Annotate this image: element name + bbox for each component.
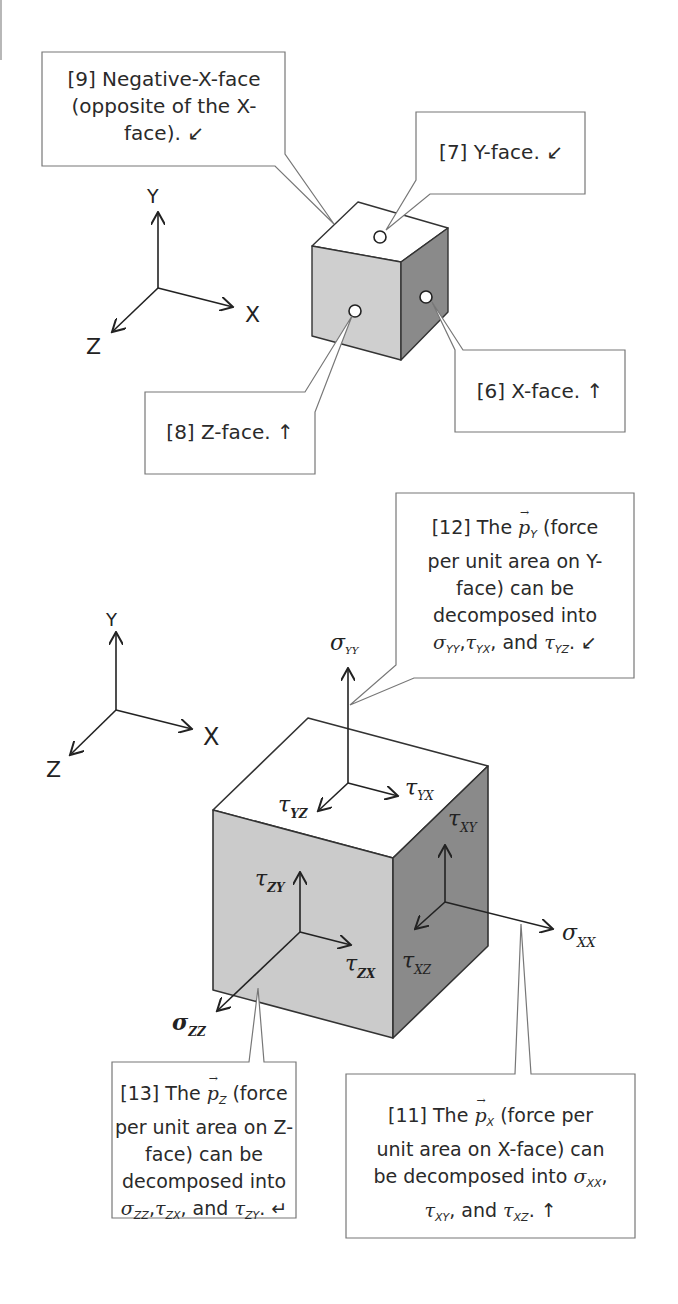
svg-text:σXX: σXX xyxy=(562,920,596,950)
callout-7-text: [7] Y-face. ↙ xyxy=(418,139,584,166)
cube-top xyxy=(312,202,448,360)
callout-8-box xyxy=(145,316,352,474)
callout-13-line-3: face) can be xyxy=(112,1141,296,1168)
callout-12-line-4: decomposed into xyxy=(398,602,632,629)
callout-7-line-1: [7] Y-face. ↙ xyxy=(418,139,584,166)
callout-7-box xyxy=(386,112,585,230)
callout-12-line-5: σYY,τYX, and τYZ. ↙ xyxy=(398,629,632,663)
callout-9-line-3: face). ↙ xyxy=(44,120,284,147)
svg-text:σZZ: σZZ xyxy=(172,1009,207,1039)
marker-y-face xyxy=(374,231,386,243)
cube-top-z-face xyxy=(312,246,401,360)
callout-11-line-2: unit area on X-face) can xyxy=(348,1136,633,1163)
callout-9-text: [9] Negative-X-face (opposite of the X- … xyxy=(44,66,284,147)
callout-12-line-2: per unit area on Y- xyxy=(398,548,632,575)
callout-9-line-2: (opposite of the X- xyxy=(44,93,284,120)
callout-6-line-1: [6] X-face. ↑ xyxy=(457,378,623,405)
callout-6-box xyxy=(432,302,625,432)
axis-label-x-bottom: X xyxy=(203,723,219,751)
callout-13-line-1: [13] The pZ (force xyxy=(112,1080,296,1114)
callout-12-text: [12] The pY (force per unit area on Y- f… xyxy=(398,514,632,663)
callout-13-line-4: decomposed into xyxy=(112,1168,296,1195)
callout-11-line-1: [11] The pX (force per xyxy=(348,1102,633,1136)
callout-13-text: [13] The pZ (force per unit area on Z- f… xyxy=(112,1080,296,1229)
callout-8-line-1: [8] Z-face. ↑ xyxy=(147,419,313,446)
callout-11-line-3: be decomposed into σXX, xyxy=(348,1163,633,1197)
callout-13-line-2: per unit area on Z- xyxy=(112,1114,296,1141)
axis-label-z-top: Z xyxy=(86,334,101,359)
marker-z-face xyxy=(349,305,361,317)
axis-label-x-top: X xyxy=(245,302,260,327)
axis-label-y-top: Y xyxy=(146,185,159,207)
callout-9-line-1: [9] Negative-X-face xyxy=(44,66,284,93)
axes-top xyxy=(112,212,233,332)
axis-label-y-bottom: Y xyxy=(105,609,118,630)
marker-x-face xyxy=(420,291,432,303)
callout-11-text: [11] The pX (force per unit area on X-fa… xyxy=(348,1102,633,1231)
axis-label-z-bottom: Z xyxy=(46,757,61,782)
callout-12-line-3: face) can be xyxy=(398,575,632,602)
callout-12-line-1: [12] The pY (force xyxy=(398,514,632,548)
callout-13-line-5: σZZ,τZX, and τZY. ↵ xyxy=(112,1195,296,1229)
svg-text:σYY: σYY xyxy=(330,630,360,656)
axes-bottom xyxy=(70,632,192,755)
callout-6-text: [6] X-face. ↑ xyxy=(457,378,623,405)
callout-8-text: [8] Z-face. ↑ xyxy=(147,419,313,446)
callout-11-line-4: τXY, and τXZ. ↑ xyxy=(348,1197,633,1231)
